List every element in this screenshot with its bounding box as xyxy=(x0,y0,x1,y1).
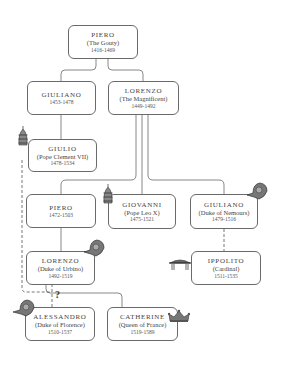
node-title: (Cardinal) xyxy=(213,265,240,272)
node-dates: 1472-1503 xyxy=(49,212,73,218)
papal-tiara-icon xyxy=(102,184,114,204)
papal-tiara-icon xyxy=(17,126,29,146)
node-name: PIERO xyxy=(49,204,73,212)
node-title: (Duke of Urbino) xyxy=(38,265,84,272)
node-dates: 1492-1519 xyxy=(49,273,73,279)
node-title: (Queen of France) xyxy=(119,321,167,328)
node-dates: 1453-1478 xyxy=(50,99,74,105)
crown-icon xyxy=(168,309,190,323)
node-name: LORENZO xyxy=(42,257,80,265)
node-lorenzo-the-magnificent: LORENZO (The Magnificent) 1449-1492 xyxy=(108,81,179,115)
node-giovanni: GIOVANNI (Pope Leo X) 1475-1521 xyxy=(108,194,176,229)
node-dates: 1478-1534 xyxy=(51,160,75,166)
node-name: CATHERINE xyxy=(120,313,165,321)
node-dates: 1511-1535 xyxy=(214,273,238,279)
node-name: GIULIANO xyxy=(204,201,244,209)
node-name: GIULIANO xyxy=(42,91,82,99)
node-dates: 1475-1521 xyxy=(130,216,154,222)
node-ippolito: IPPOLITO (Cardinal) 1511-1535 xyxy=(191,251,261,285)
node-name: IPPOLITO xyxy=(208,257,245,265)
node-dates: 1416-1469 xyxy=(91,47,115,53)
node-name: GIULIO xyxy=(48,145,76,153)
node-giulio: GIULIO (Pope Clement VII) 1478-1534 xyxy=(28,139,97,172)
uncertain-marker: ? xyxy=(55,289,60,300)
node-title: (Pope Leo X) xyxy=(124,209,159,216)
node-piero-the-gouty: PIERO (The Gouty) 1416-1469 xyxy=(68,25,138,59)
node-piero-1472: PIERO 1472-1503 xyxy=(26,194,96,228)
ducal-helmet-icon xyxy=(82,238,106,258)
ducal-helmet-icon xyxy=(245,181,269,201)
node-dates: 1510-1537 xyxy=(48,329,72,335)
ducal-helmet-icon xyxy=(12,298,36,318)
node-title: (Duke of Nemours) xyxy=(199,209,250,216)
node-name: GIOVANNI xyxy=(122,201,162,209)
node-title: (The Magnificent) xyxy=(120,95,168,102)
node-dates: 1449-1492 xyxy=(132,103,156,109)
node-title: (Duke of Florence) xyxy=(35,321,85,328)
node-giuliano-1453: GIULIANO 1453-1478 xyxy=(27,81,96,115)
node-title: (The Gouty) xyxy=(87,39,119,46)
cardinal-hat-icon xyxy=(169,257,191,271)
node-name: PIERO xyxy=(91,31,115,39)
node-dates: 1519-1589 xyxy=(131,329,155,335)
node-name: LORENZO xyxy=(125,87,163,95)
node-name: ALESSANDRO xyxy=(33,313,86,321)
node-title: (Pope Clement VII) xyxy=(37,153,89,160)
node-dates: 1479-1516 xyxy=(212,216,236,222)
